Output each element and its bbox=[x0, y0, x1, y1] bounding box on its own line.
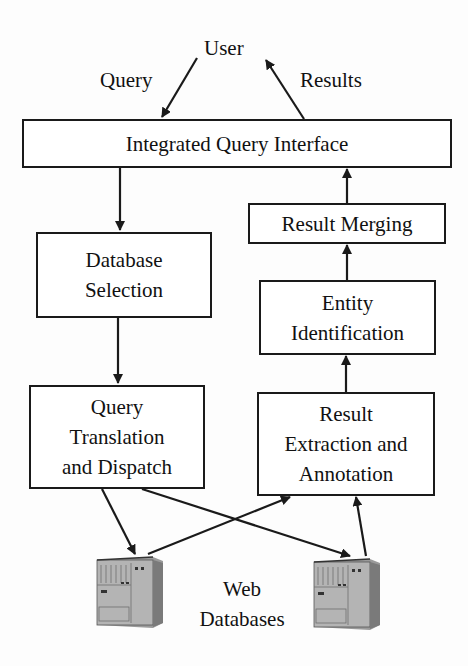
web-databases-line-2: Databases bbox=[190, 604, 294, 634]
db1-to-extraction-arrow bbox=[148, 497, 290, 554]
translation-to-db1-arrow bbox=[102, 489, 135, 554]
web-databases-line-1: Web bbox=[190, 574, 294, 604]
entity-line-1: Entity bbox=[322, 288, 373, 318]
query-translation-line-1: Query bbox=[91, 392, 143, 422]
extraction-line-2: Extraction and bbox=[284, 429, 407, 459]
entity-line-2: Identification bbox=[291, 318, 404, 348]
integrated-query-interface-box: Integrated Query Interface bbox=[22, 119, 452, 168]
server-icon bbox=[95, 555, 165, 630]
server-icon bbox=[312, 557, 382, 632]
query-translation-box: Query Translation and Dispatch bbox=[29, 385, 205, 489]
results-arrow bbox=[266, 60, 304, 119]
extraction-line-3: Annotation bbox=[299, 459, 394, 489]
result-merging-box: Result Merging bbox=[248, 203, 446, 244]
database-selection-box: Database Selection bbox=[36, 232, 212, 318]
db-selection-line-2: Selection bbox=[85, 275, 163, 305]
extraction-line-1: Result bbox=[319, 399, 373, 429]
query-edge-label: Query bbox=[100, 68, 152, 92]
entity-identification-box: Entity Identification bbox=[259, 280, 436, 355]
db-selection-line-1: Database bbox=[86, 245, 163, 275]
result-extraction-box: Result Extraction and Annotation bbox=[257, 392, 435, 496]
results-edge-label: Results bbox=[300, 68, 362, 92]
result-merging-label: Result Merging bbox=[282, 209, 413, 239]
interface-label: Integrated Query Interface bbox=[126, 129, 349, 159]
query-arrow bbox=[162, 58, 197, 117]
query-translation-line-3: and Dispatch bbox=[62, 452, 172, 482]
db2-to-extraction-arrow bbox=[356, 497, 366, 556]
user-node: User bbox=[204, 36, 244, 60]
query-translation-line-2: Translation bbox=[70, 422, 165, 452]
translation-to-db2-arrow bbox=[142, 489, 350, 556]
web-databases-label: Web Databases bbox=[190, 574, 294, 634]
